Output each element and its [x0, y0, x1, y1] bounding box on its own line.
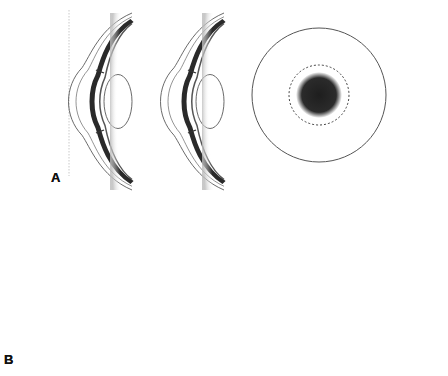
- panel-label-a-text: A: [51, 170, 60, 185]
- panel-label-b-text: B: [4, 352, 13, 367]
- retinal-image-a: [252, 28, 386, 162]
- eye-a2: [161, 13, 227, 190]
- blur-disc: [296, 72, 342, 118]
- eye-a1: [69, 13, 135, 190]
- eye-diagram-figure: [0, 0, 448, 376]
- panel-a: [69, 10, 387, 190]
